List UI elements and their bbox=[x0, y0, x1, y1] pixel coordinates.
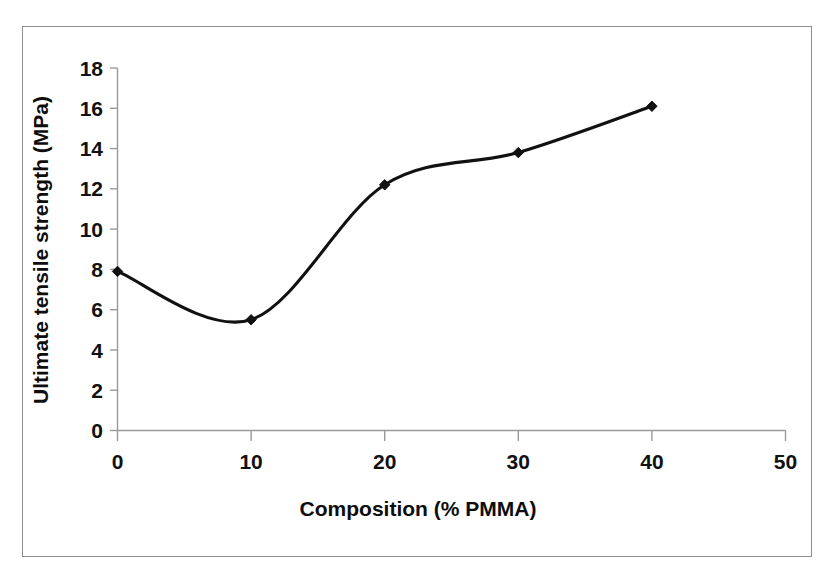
x-axis-title: Composition (% PMMA) bbox=[300, 497, 537, 520]
y-tick-label: 0 bbox=[91, 419, 103, 442]
x-tick-label: 40 bbox=[640, 450, 663, 473]
x-tick-label: 0 bbox=[112, 450, 124, 473]
x-tick-labels: 0 10 20 30 40 50 bbox=[112, 450, 798, 473]
series-line-path bbox=[118, 106, 652, 322]
figure-canvas: 18 16 14 12 10 8 6 4 2 0 0 10 20 30 40 5… bbox=[0, 0, 835, 575]
data-point-marker bbox=[246, 315, 256, 325]
y-tick-label: 6 bbox=[91, 298, 103, 321]
x-tick-label: 30 bbox=[507, 450, 530, 473]
y-tick-label: 16 bbox=[80, 97, 103, 120]
y-axis-ticks bbox=[110, 68, 118, 431]
data-point-marker bbox=[513, 147, 523, 157]
data-point-marker bbox=[112, 266, 122, 276]
y-tick-label: 14 bbox=[80, 137, 104, 160]
x-tick-label: 20 bbox=[373, 450, 396, 473]
x-tick-label: 50 bbox=[774, 450, 797, 473]
y-tick-label: 18 bbox=[80, 57, 104, 80]
data-point-marker bbox=[647, 101, 657, 111]
y-tick-label: 8 bbox=[91, 258, 103, 281]
x-tick-label: 10 bbox=[239, 450, 262, 473]
x-axis-ticks bbox=[118, 431, 786, 442]
y-tick-label: 4 bbox=[91, 339, 103, 362]
y-tick-label: 2 bbox=[91, 379, 103, 402]
y-tick-labels: 18 16 14 12 10 8 6 4 2 0 bbox=[80, 57, 104, 442]
line-chart: 18 16 14 12 10 8 6 4 2 0 0 10 20 30 40 5… bbox=[0, 0, 835, 575]
y-axis-title: Ultimate tensile strength (MPa) bbox=[29, 96, 52, 404]
y-tick-label: 12 bbox=[80, 177, 103, 200]
y-tick-label: 10 bbox=[80, 218, 103, 241]
